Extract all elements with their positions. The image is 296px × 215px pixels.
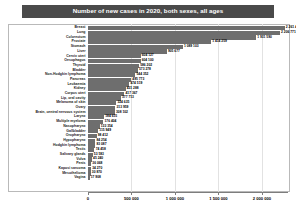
bar [88, 54, 141, 58]
x-tick [262, 192, 263, 195]
bar [88, 92, 124, 96]
category-label: Breast [8, 26, 88, 30]
x-axis [88, 192, 288, 193]
bar-track: 83 087 [88, 143, 290, 147]
bar-track: 184 615 [88, 115, 290, 119]
category-label: Stomach [8, 45, 88, 49]
bar-track: 431 288 [88, 87, 290, 91]
bar-row: Breast2 261 419 [8, 26, 290, 30]
bar-row: Mesothelioma30 870 [8, 171, 290, 175]
bar-row: Stomach1 089 103 [8, 45, 290, 49]
bar-track: 34 270 [88, 167, 290, 171]
bar-track: 176 404 [88, 120, 290, 124]
bar-row: Lung2 206 771 [8, 31, 290, 35]
bar-track: 573 278 [88, 68, 290, 72]
category-label: Vagina [8, 176, 88, 180]
bar [88, 139, 95, 143]
bar-value-label: 905 677 [167, 50, 180, 53]
bar [88, 129, 98, 133]
bar [88, 68, 138, 72]
page-title: Number of new cases in 2020, both sexes,… [73, 8, 224, 14]
bar [88, 59, 141, 63]
bar [88, 26, 285, 30]
bar-track: 905 677 [88, 49, 290, 53]
bar-value-label: 17 908 [90, 177, 101, 180]
category-label: Pancreas [8, 78, 88, 82]
bar-value-label: 2 206 771 [280, 31, 296, 34]
bar [88, 35, 256, 39]
bar-track: 98 412 [88, 134, 290, 138]
bar-row: Leukaemia474 519 [8, 82, 290, 86]
bar-row: Melanoma of skin324 635 [8, 101, 290, 105]
x-tick-label: 1 500 000 [209, 197, 227, 201]
bar-track: 586 202 [88, 64, 290, 68]
bar-track: 1 089 103 [88, 45, 290, 49]
bar-track: 1 931 590 [88, 35, 290, 39]
bar [88, 49, 167, 53]
bar-track: 84 254 [88, 139, 290, 143]
bar [88, 82, 129, 86]
bar [88, 124, 100, 128]
bar-track: 544 352 [88, 73, 290, 77]
bar-row: Non-Hodgkin lymphoma544 352 [8, 73, 290, 77]
bar-row: Testis74 458 [8, 148, 290, 152]
bar-row: Vagina17 908 [8, 176, 290, 180]
bar-track: 604 127 [88, 54, 290, 58]
x-tick [218, 192, 219, 195]
bar [88, 106, 115, 110]
bar-track: 474 519 [88, 82, 290, 86]
bar-row: Hypopharynx84 254 [8, 139, 290, 143]
bar-row: Kaposi sarcoma34 270 [8, 167, 290, 171]
bar-row: Vulva45 240 [8, 157, 290, 161]
bar [88, 64, 139, 68]
bar-row: Hodgkin lymphoma83 087 [8, 143, 290, 147]
x-tick [131, 192, 132, 195]
x-tick-label: 1 000 000 [166, 197, 184, 201]
bar-chart: Number of new cases in 2020, both sexes,… [0, 0, 296, 215]
bar [88, 115, 104, 119]
bar-track: 604 100 [88, 59, 290, 63]
category-label: Liver [8, 50, 88, 54]
bar-row: Pancreas495 773 [8, 78, 290, 82]
chart-title-bar: Number of new cases in 2020, both sexes,… [22, 5, 274, 18]
bar [88, 134, 97, 138]
bar-row: Colorectum1 931 590 [8, 35, 290, 39]
x-tick-label: 2 000 000 [253, 197, 271, 201]
x-tick-label: 500 000 [124, 197, 139, 201]
bar-track: 36 068 [88, 162, 290, 166]
bar-track: 45 240 [88, 157, 290, 161]
category-label: Nasopharynx [8, 125, 88, 129]
bar-track: 74 458 [88, 148, 290, 152]
bar-row: Multiple myeloma176 404 [8, 120, 290, 124]
bar-track: 17 908 [88, 176, 290, 180]
bar-value-label: 1 414 259 [211, 41, 227, 44]
bar [88, 96, 121, 100]
bar-row: Brain, central nervous system308 102 [8, 110, 290, 114]
bar-track: 30 870 [88, 171, 290, 175]
bar [88, 101, 116, 105]
category-label: Thyroid [8, 64, 88, 68]
bar-row: Oropharynx98 412 [8, 134, 290, 138]
bar-track: 308 102 [88, 110, 290, 114]
bar [88, 31, 280, 35]
bar-row: Kidney431 288 [8, 87, 290, 91]
bar-value-label: 1 931 590 [256, 36, 272, 39]
bar-row: Penis36 068 [8, 162, 290, 166]
x-tick [175, 192, 176, 195]
bar-row: Gallbladder115 949 [8, 129, 290, 133]
bar-row: Corpus uteri417 367 [8, 92, 290, 96]
bar-track: 115 949 [88, 129, 290, 133]
bar-value-label: 1 089 103 [183, 45, 199, 48]
bar [88, 87, 126, 91]
bar-row: Larynx184 615 [8, 115, 290, 119]
bar-track: 495 773 [88, 78, 290, 82]
bar-track: 2 261 419 [88, 26, 290, 30]
bar-rows: Breast2 261 419Lung2 206 771Colorectum1 … [8, 26, 290, 181]
bar-row: Prostate1 414 259 [8, 40, 290, 44]
bar-track: 53 583 [88, 153, 290, 157]
bar-track: 417 367 [88, 92, 290, 96]
bar-row: Nasopharynx133 354 [8, 124, 290, 128]
bar [88, 78, 131, 82]
x-tick [88, 192, 89, 195]
bar-row: Salivary glands53 583 [8, 153, 290, 157]
